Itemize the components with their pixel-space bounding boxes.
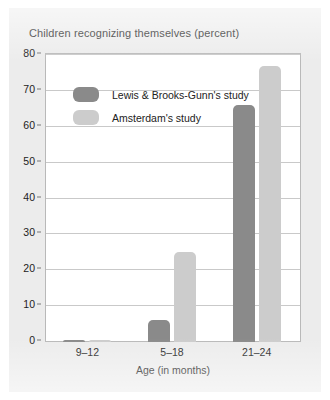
- legend-swatch: [73, 87, 99, 102]
- gridline: [46, 54, 300, 55]
- legend-label: Lewis & Brooks-Gunn's study: [112, 89, 249, 101]
- legend-item: Lewis & Brooks-Gunn's study: [73, 83, 263, 106]
- gridline: [46, 233, 300, 234]
- x-tick-label: 9–12: [76, 346, 99, 358]
- gridline: [46, 269, 300, 270]
- x-tick-label: 5–18: [160, 346, 183, 358]
- y-axis: 01020304050607080: [9, 53, 41, 342]
- y-tick-mark: [37, 268, 41, 269]
- gridline: [46, 162, 300, 163]
- y-tick-mark: [37, 53, 41, 54]
- x-tick-label: 21–24: [242, 346, 271, 358]
- legend-label: Amsterdam's study: [112, 112, 201, 124]
- y-tick-label: 50: [23, 155, 35, 167]
- legend-item: Amsterdam's study: [73, 106, 263, 129]
- y-tick-mark: [37, 124, 41, 125]
- figure-panel: Children recognizing themselves (percent…: [9, 8, 321, 392]
- y-tick-mark: [37, 232, 41, 233]
- y-tick-label: 40: [23, 191, 35, 203]
- y-tick-label: 0: [29, 334, 35, 346]
- y-tick-label: 30: [23, 226, 35, 238]
- chart-title: Children recognizing themselves (percent…: [29, 27, 239, 39]
- y-tick-label: 60: [23, 119, 35, 131]
- gridline: [46, 305, 300, 306]
- y-tick-mark: [37, 196, 41, 197]
- legend-swatch: [73, 110, 99, 125]
- x-axis: 9–125–1821–24: [45, 346, 301, 362]
- y-tick-label: 70: [23, 83, 35, 95]
- y-tick-label: 80: [23, 47, 35, 59]
- y-tick-label: 20: [23, 262, 35, 274]
- x-axis-title: Age (in months): [45, 364, 301, 376]
- y-tick-mark: [37, 304, 41, 305]
- legend: Lewis & Brooks-Gunn's studyAmsterdam's s…: [73, 83, 263, 129]
- y-tick-mark: [37, 160, 41, 161]
- y-tick-mark: [37, 340, 41, 341]
- gridline: [46, 198, 300, 199]
- y-tick-mark: [37, 88, 41, 89]
- y-tick-label: 10: [23, 298, 35, 310]
